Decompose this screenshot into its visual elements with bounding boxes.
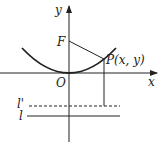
focus-to-point-segment [69,41,104,59]
y-axis-label: y [54,3,62,17]
point-label: P(x, y) [105,53,145,67]
focus-label: F [56,35,66,49]
origin-label: O [56,76,66,90]
x-axis-label: x [148,75,155,89]
line-l-label: l [19,109,23,123]
parabola-diagram: y x O F P(x, y) l' l [0,0,162,154]
